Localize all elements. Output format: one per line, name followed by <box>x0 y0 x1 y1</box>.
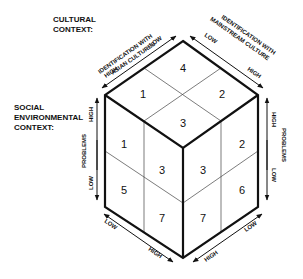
cell-left-bottom-left: 5 <box>121 184 127 196</box>
cell-right-top-left: 3 <box>200 164 206 176</box>
social-environmental-context-label: SOCIAL ENVIRONMENTAL CONTEXT: <box>14 103 83 132</box>
cell-left-top-left: 1 <box>121 138 127 150</box>
problems-right-title: PROBLEMS <box>281 128 287 162</box>
cell-top-front: 3 <box>180 117 186 129</box>
cell-top-left: 1 <box>140 88 146 100</box>
bottom-left-low: LOW <box>103 218 118 231</box>
cell-right-bottom-right: 6 <box>239 184 245 196</box>
cell-left-top-right: 3 <box>159 164 165 176</box>
problems-right-high: HIGH <box>271 112 277 127</box>
cell-top-right: 2 <box>219 88 225 100</box>
cell-left-bottom-right: 7 <box>159 212 165 224</box>
bottom-right-high: HIGH <box>203 249 219 263</box>
svg-text:CONTEXT:: CONTEXT: <box>14 123 54 132</box>
svg-text:SOCIAL: SOCIAL <box>14 103 44 112</box>
mainstream-axis-low: LOW <box>203 32 218 45</box>
cell-right-top-right: 2 <box>239 138 245 150</box>
svg-text:ENVIRONMENTAL: ENVIRONMENTAL <box>14 113 83 122</box>
bottom-left-high: HIGH <box>147 246 163 260</box>
svg-text:MAINSTREAM CULTURE: MAINSTREAM CULTURE <box>209 16 270 61</box>
mainstream-axis-labels: IDENTIFICATION WITH MAINSTREAM CULTURE <box>209 9 276 62</box>
problems-left-high: HIGH <box>88 107 94 122</box>
problems-right-low: LOW <box>271 168 277 182</box>
cell-top-back: 4 <box>180 62 186 74</box>
svg-text:CULTURAL: CULTURAL <box>53 15 96 24</box>
bottom-right-low: LOW <box>243 220 258 233</box>
problems-left-low: LOW <box>88 176 94 190</box>
cell-right-bottom-left: 7 <box>200 212 206 224</box>
svg-text:IDENTIFICATION WITH: IDENTIFICATION WITH <box>220 14 276 56</box>
problems-left-title: PROBLEMS <box>81 134 87 168</box>
svg-text:CONTEXT:: CONTEXT: <box>53 25 93 34</box>
cultural-context-label: CULTURAL CONTEXT: <box>53 15 96 34</box>
cube: 4 1 2 3 1 3 5 7 3 2 7 6 <box>105 41 258 258</box>
cultural-identity-cube-diagram: CULTURAL CONTEXT: SOCIAL ENVIRONMENTAL C… <box>0 0 303 279</box>
